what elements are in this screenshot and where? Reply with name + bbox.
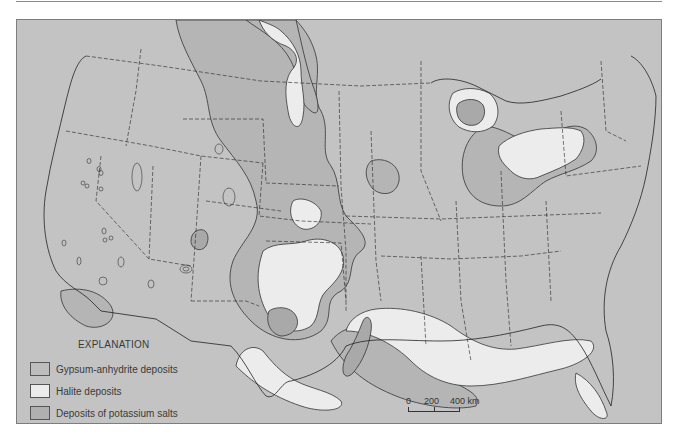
halite-swatch: [30, 384, 50, 398]
scale-tick-0: 0: [406, 396, 411, 406]
playa-outlines: [62, 144, 235, 288]
state-boundaries: [66, 49, 641, 361]
legend-label: Gypsum-anhydrite deposits: [56, 364, 178, 375]
potassium-swatch: [30, 406, 50, 420]
scale-bar: 0 200 400 km: [406, 396, 496, 416]
gypsum-swatch: [30, 362, 50, 376]
legend-title: EXPLANATION: [78, 339, 178, 350]
scale-tick-400: 400 km: [450, 396, 480, 406]
legend-item-halite: Halite deposits: [30, 380, 178, 402]
legend-item-potassium: Deposits of potassium salts: [30, 402, 178, 424]
scale-tick-mark: [408, 407, 409, 412]
top-rule: [16, 1, 662, 2]
scale-tick-mark: [459, 407, 460, 412]
legend: EXPLANATION Gypsum-anhydrite deposits Ha…: [30, 339, 178, 424]
scale-tick-200: 200: [424, 396, 439, 406]
scale-tick-mark: [434, 407, 435, 412]
legend-label: Halite deposits: [56, 386, 122, 397]
legend-label: Deposits of potassium salts: [56, 408, 178, 419]
legend-item-gypsum: Gypsum-anhydrite deposits: [30, 358, 178, 380]
